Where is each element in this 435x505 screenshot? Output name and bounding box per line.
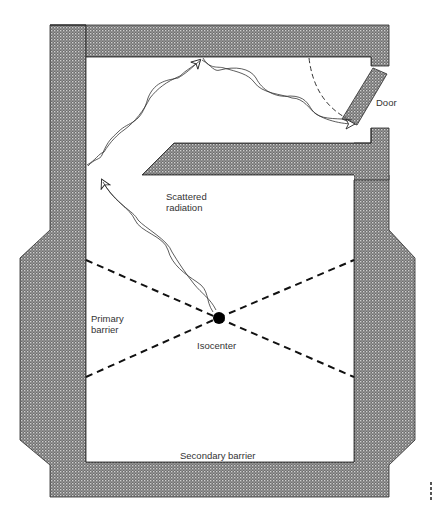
bunker-diagram (0, 0, 435, 505)
primary-barrier-label-line2: barrier (91, 324, 124, 335)
scattered-radiation-label-line1: Scattered (166, 191, 207, 202)
primary-barrier-label-line1: Primary (91, 313, 124, 324)
primary-barrier-label: Primary barrier (91, 313, 124, 335)
secondary-barrier-label: Secondary barrier (180, 450, 256, 461)
scattered-radiation-label: Scattered radiation (166, 191, 207, 213)
isocenter-label: Isocenter (197, 340, 236, 351)
isocenter-point (213, 312, 225, 324)
edge-marks (430, 482, 433, 502)
scattered-radiation-label-line2: radiation (166, 202, 207, 213)
door-label: Door (376, 97, 397, 108)
